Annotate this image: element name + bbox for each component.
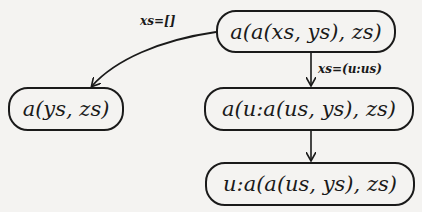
node-result: u:a(a(us, ys), zs)	[205, 162, 415, 206]
node-root: a(a(xs, ys), zs)	[216, 10, 396, 53]
node-cons-case: a(u:a(us, ys), zs)	[204, 87, 414, 131]
node-nil-case: a(ys, zs)	[8, 87, 124, 131]
edge-root-to-nil-case	[92, 32, 216, 86]
edge-label-xs-cons: xs=(u:us)	[318, 62, 382, 76]
edge-label-xs-empty: xs=[]	[140, 14, 175, 28]
